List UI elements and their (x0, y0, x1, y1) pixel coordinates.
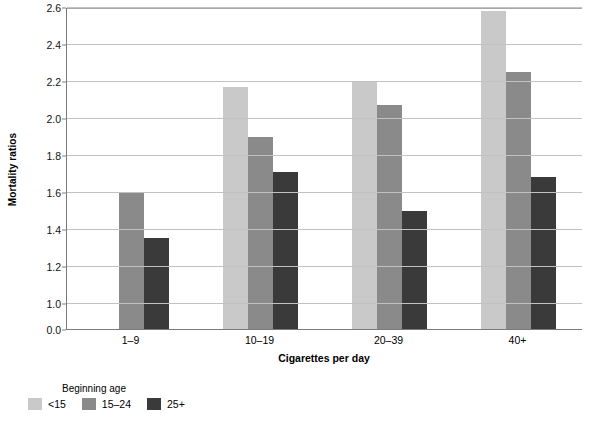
bar-chart-figure: Mortality ratios 0.01.01.21.41.61.82.02.… (0, 0, 590, 421)
legend-label: 15–24 (102, 398, 131, 410)
legend-swatch (28, 398, 42, 410)
legend-item: 25+ (147, 398, 185, 410)
bar (248, 137, 273, 330)
y-axis-title: Mortality ratios (0, 0, 26, 338)
gridline (67, 192, 582, 193)
plot-wrapper: 0.01.01.21.41.61.82.02.22.42.6 (26, 8, 582, 330)
legend-item: <15 (28, 398, 66, 410)
gridline (67, 229, 582, 230)
gridline (67, 7, 582, 8)
y-tick-label: 1.6 (46, 187, 61, 199)
x-axis-title-label: Cigarettes per day (278, 352, 370, 364)
y-tick-label: 1.8 (46, 150, 61, 162)
legend: Beginning age <1515–2425+ (28, 383, 288, 417)
gridline (67, 118, 582, 119)
x-tick-label: 10–19 (245, 334, 274, 346)
bar (506, 72, 531, 329)
legend-entries: <1515–2425+ (28, 398, 201, 410)
legend-item: 15–24 (82, 398, 131, 410)
legend-label: 25+ (167, 398, 185, 410)
bar (144, 238, 169, 329)
legend-swatch (82, 398, 96, 410)
y-axis-title-label: Mortality ratios (8, 132, 19, 205)
x-tick-label: 20–39 (374, 334, 403, 346)
bar (481, 11, 506, 329)
x-axis-tick-labels: 1–910–1920–3940+ (66, 334, 582, 352)
y-tick-label: 1.0 (46, 298, 61, 310)
legend-label: <15 (48, 398, 66, 410)
y-tick-label: 2.0 (46, 113, 61, 125)
gridline (67, 155, 582, 156)
plot-area (66, 8, 582, 330)
y-tick-label: 0.0 (46, 324, 61, 336)
y-tick-label: 1.2 (46, 261, 61, 273)
bar (223, 87, 248, 329)
bar (119, 192, 144, 329)
x-tick-label: 1–9 (122, 334, 140, 346)
x-tick-label: 40+ (509, 334, 527, 346)
y-tick-label: 2.6 (46, 2, 61, 14)
gridline (67, 81, 582, 82)
y-axis-tick-labels: 0.01.01.21.41.61.82.02.22.42.6 (26, 8, 66, 330)
y-tick-label: 1.4 (46, 224, 61, 236)
bar (377, 105, 402, 329)
y-tick-label: 2.2 (46, 76, 61, 88)
legend-swatch (147, 398, 161, 410)
y-tick-label: 2.4 (46, 39, 61, 51)
bar (531, 177, 556, 329)
bar (273, 172, 298, 329)
x-axis-title: Cigarettes per day (66, 352, 582, 364)
gridline (67, 303, 582, 304)
legend-title: Beginning age (62, 383, 126, 394)
gridline (67, 266, 582, 267)
bars-layer (67, 8, 582, 329)
gridline (67, 44, 582, 45)
